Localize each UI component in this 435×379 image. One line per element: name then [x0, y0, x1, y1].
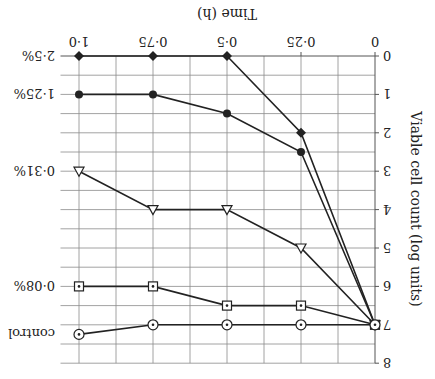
y-tick-label: 3 [383, 163, 391, 178]
y-tick-label: 2 [383, 125, 391, 140]
square-marker-dot [152, 285, 155, 288]
series-labels: 2·5%1·25%0·31%0·08%control [8, 48, 55, 341]
x-tick-label: 0·75 [139, 34, 168, 49]
filled-circle-marker [149, 90, 157, 98]
y-axis-title: Viable cell count (log units) [408, 110, 424, 306]
x-axis-title: Time (h) [197, 6, 257, 22]
x-axis-ticks: 00·250·50·751·0 [69, 34, 379, 56]
circle-marker-dot [300, 324, 303, 327]
circle-marker-dot [374, 324, 377, 327]
x-tick-label: 0·5 [217, 34, 238, 49]
diamond-marker [74, 51, 84, 61]
series-label: 2·5% [22, 48, 55, 63]
circle-marker-dot [78, 333, 81, 336]
square-marker-dot [78, 285, 81, 288]
filled-circle-marker [75, 90, 83, 98]
chart-svg: 00·250·50·751·0 012345678 Time (h) Viabl… [0, 0, 435, 379]
diamond-marker [148, 51, 158, 61]
y-tick-label: 6 [383, 278, 391, 293]
triangle-marker [74, 167, 84, 176]
x-tick-label: 0 [371, 34, 379, 49]
y-tick-label: 1 [383, 86, 391, 101]
square-marker-dot [226, 304, 229, 307]
circle-marker-dot [226, 324, 229, 327]
y-tick-label: 7 [383, 317, 391, 332]
series-label: control [8, 326, 55, 341]
filled-circle-marker [297, 148, 305, 156]
x-tick-label: 0·25 [287, 34, 316, 49]
series-label: 1·25% [14, 86, 55, 101]
series-label: 0·08% [14, 278, 55, 293]
square-marker-dot [300, 304, 303, 307]
x-tick-label: 1·0 [69, 34, 90, 49]
y-tick-label: 4 [383, 202, 391, 217]
circle-marker-dot [152, 324, 155, 327]
chart: 00·250·50·751·0 012345678 Time (h) Viabl… [0, 0, 435, 379]
y-tick-label: 8 [383, 355, 391, 370]
y-tick-label: 0 [383, 48, 391, 63]
series-label: 0·31% [14, 163, 55, 178]
y-tick-label: 5 [383, 240, 391, 255]
filled-circle-marker [223, 110, 231, 118]
